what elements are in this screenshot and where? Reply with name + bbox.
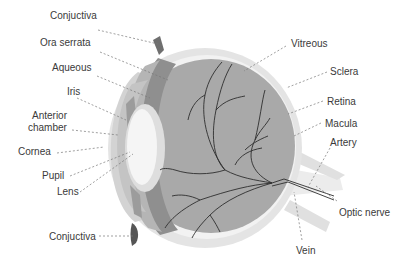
label-anterior-chamber-line2: chamber — [28, 122, 67, 133]
label-vein: Vein — [296, 245, 315, 256]
label-conjuctiva-top: Conjuctiva — [50, 10, 97, 21]
label-optic-nerve: Optic nerve — [339, 207, 390, 218]
label-retina: Retina — [327, 96, 356, 107]
label-anterior-chamber-line1: Anterior — [32, 110, 67, 121]
label-ora-serrata: Ora serrata — [40, 37, 91, 48]
label-sclera: Sclera — [330, 66, 358, 77]
label-iris: Iris — [67, 86, 80, 97]
label-aqueous: Aqueous — [52, 62, 91, 73]
label-conjuctiva-bottom: Conjuctiva — [49, 231, 96, 242]
label-lens: Lens — [57, 186, 79, 197]
label-cornea: Cornea — [18, 146, 51, 157]
label-artery: Artery — [330, 137, 357, 148]
label-pupil: Pupil — [42, 170, 64, 181]
lens — [127, 109, 157, 185]
conjuctiva-top-shape — [153, 36, 164, 55]
label-vitreous: Vitreous — [291, 38, 328, 49]
conjuctiva-bottom-shape — [131, 223, 139, 246]
label-macula: Macula — [325, 118, 357, 129]
